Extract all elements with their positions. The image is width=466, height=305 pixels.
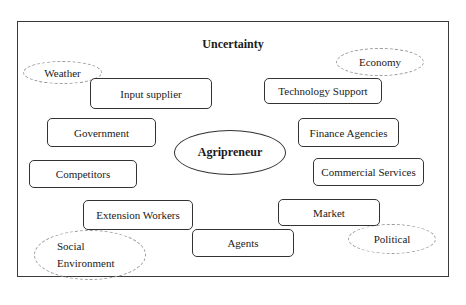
- actor-market: Market: [278, 199, 380, 226]
- actor-extension-workers: Extension Workers: [83, 200, 193, 230]
- actor-input-supplier: Input supplier: [90, 78, 212, 109]
- actor-commercial-services: Commercial Services: [313, 158, 424, 186]
- actor-competitors: Competitors: [29, 160, 137, 188]
- actor-technology-support: Technology Support: [264, 78, 382, 104]
- center-agripreneur: Agripreneur: [174, 130, 286, 175]
- uncertainty-social-environment: SocialEnvironment: [34, 230, 146, 280]
- actor-finance-agencies: Finance Agencies: [298, 118, 399, 147]
- actor-government: Government: [47, 118, 156, 147]
- actor-agents: Agents: [192, 229, 294, 257]
- uncertainty-political: Political: [348, 224, 436, 254]
- social-environment-label: SocialEnvironment: [57, 238, 114, 272]
- uncertainty-economy: Economy: [336, 48, 424, 76]
